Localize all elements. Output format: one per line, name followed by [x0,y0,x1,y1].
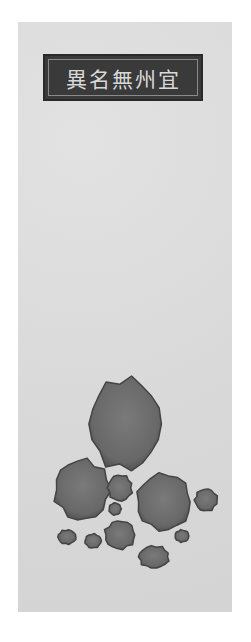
stone [138,546,169,569]
stone [175,530,189,543]
stone [105,521,135,550]
stone [107,475,132,501]
stone [89,376,161,471]
stone [58,530,76,545]
stones-illustration [0,0,251,642]
stone [137,473,190,532]
stone-group [54,376,217,568]
stone [194,489,217,511]
stone [85,534,102,548]
stone [54,458,111,520]
stone [109,503,121,516]
